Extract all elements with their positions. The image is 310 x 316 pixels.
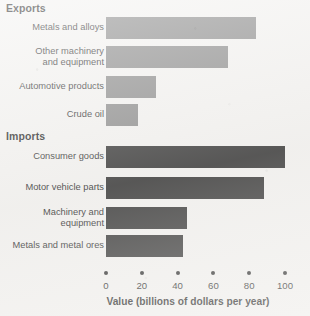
bar-chart: Exports Imports Metals and alloysOther m… bbox=[0, 0, 310, 316]
x-tick-label: 80 bbox=[244, 280, 255, 291]
x-tick-label: 20 bbox=[136, 280, 147, 291]
group-heading-exports: Exports bbox=[6, 2, 46, 14]
x-tick-dot bbox=[211, 271, 215, 275]
group-heading-imports: Imports bbox=[6, 130, 45, 142]
bar-label: Machinery and equipment bbox=[4, 207, 104, 230]
x-tick-dot bbox=[104, 271, 108, 275]
x-axis-title: Value (billions of dollars per year) bbox=[0, 296, 310, 307]
x-tick-dot bbox=[283, 271, 287, 275]
x-tick-dot bbox=[176, 271, 180, 275]
bar-exports bbox=[106, 104, 138, 126]
bar-label: Consumer goods bbox=[4, 151, 104, 162]
bar-imports bbox=[106, 177, 264, 199]
x-tick-label: 40 bbox=[172, 280, 183, 291]
bar-imports bbox=[106, 207, 187, 229]
bar-label: Other machinery and equipment bbox=[4, 46, 104, 69]
x-tick-dot bbox=[140, 271, 144, 275]
bar-label: Metals and metal ores bbox=[4, 240, 104, 251]
x-tick-label: 0 bbox=[103, 280, 108, 291]
bar-label: Automotive products bbox=[4, 81, 104, 92]
bar-imports bbox=[106, 146, 285, 168]
bar-exports bbox=[106, 46, 228, 68]
x-tick-label: 60 bbox=[208, 280, 219, 291]
x-tick-dot bbox=[247, 271, 251, 275]
bar-exports bbox=[106, 76, 156, 98]
bar-label: Metals and alloys bbox=[4, 22, 104, 33]
bar-label: Motor vehicle parts bbox=[4, 182, 104, 193]
x-tick-label: 100 bbox=[277, 280, 293, 291]
bar-exports bbox=[106, 17, 256, 39]
bar-imports bbox=[106, 235, 183, 257]
bar-label: Crude oil bbox=[4, 109, 104, 120]
